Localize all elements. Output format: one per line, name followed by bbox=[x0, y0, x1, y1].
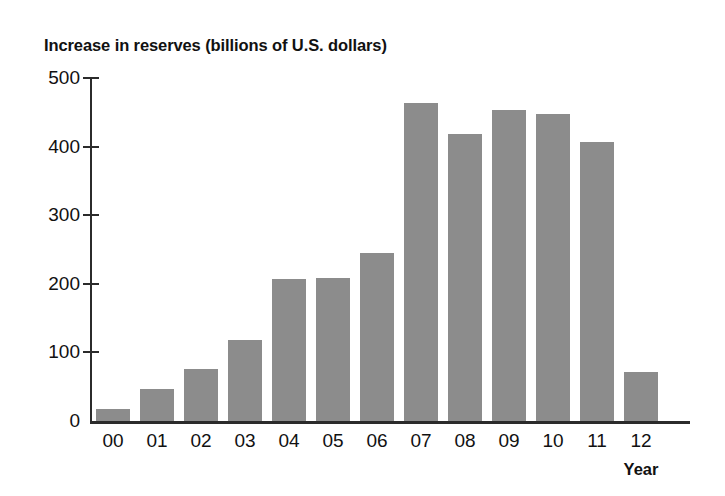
bar bbox=[360, 253, 394, 421]
x-axis-tick-label: 03 bbox=[228, 430, 262, 452]
bar bbox=[140, 389, 174, 421]
y-axis-tick-label: 300 bbox=[48, 204, 80, 226]
x-axis-tick-label: 11 bbox=[580, 430, 614, 452]
bar bbox=[624, 372, 658, 421]
bar bbox=[96, 409, 130, 421]
plot-area: 0100200300400500 00010203040506070809101… bbox=[90, 78, 690, 423]
y-axis-tick-label: 100 bbox=[48, 341, 80, 363]
y-axis-tick-mark bbox=[83, 146, 99, 148]
y-axis-tick-label: 500 bbox=[48, 67, 80, 89]
bar bbox=[536, 114, 570, 421]
x-axis-tick-label: 06 bbox=[360, 430, 394, 452]
bar bbox=[316, 278, 350, 421]
bar bbox=[492, 110, 526, 421]
y-axis-tick-mark bbox=[83, 283, 99, 285]
bar bbox=[272, 279, 306, 421]
x-axis-tick-label: 09 bbox=[492, 430, 526, 452]
x-axis-tick-label: 04 bbox=[272, 430, 306, 452]
bar bbox=[184, 369, 218, 421]
y-axis-tick-label: 400 bbox=[48, 136, 80, 158]
y-axis-tick-label: 0 bbox=[69, 410, 80, 432]
y-axis-tick-mark bbox=[83, 351, 99, 353]
y-axis-tick-mark bbox=[83, 77, 99, 79]
chart-title: Increase in reserves (billions of U.S. d… bbox=[44, 36, 387, 55]
x-axis-tick-label: 05 bbox=[316, 430, 350, 452]
bar bbox=[228, 340, 262, 421]
y-axis-line bbox=[90, 78, 92, 423]
x-axis-title: Year bbox=[616, 460, 666, 479]
x-axis-line bbox=[90, 421, 690, 424]
y-axis-tick-label: 200 bbox=[48, 273, 80, 295]
x-axis-tick-label: 10 bbox=[536, 430, 570, 452]
x-axis-tick-label: 12 bbox=[624, 430, 658, 452]
bar bbox=[580, 142, 614, 421]
x-axis-tick-label: 01 bbox=[140, 430, 174, 452]
y-axis-tick-mark bbox=[83, 214, 99, 216]
bar bbox=[404, 103, 438, 421]
x-axis-tick-label: 08 bbox=[448, 430, 482, 452]
y-axis-tick-labels: 0100200300400500 bbox=[18, 78, 80, 423]
x-axis-tick-label: 02 bbox=[184, 430, 218, 452]
bar-chart-figure: Increase in reserves (billions of U.S. d… bbox=[0, 0, 725, 496]
bar bbox=[448, 134, 482, 421]
x-axis-tick-label: 07 bbox=[404, 430, 438, 452]
x-axis-tick-label: 00 bbox=[96, 430, 130, 452]
